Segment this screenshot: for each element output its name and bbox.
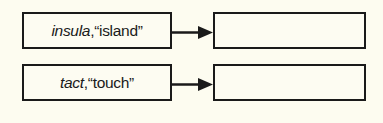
arrow-icon bbox=[172, 26, 213, 39]
arrow-icon bbox=[172, 78, 213, 91]
arrows bbox=[0, 0, 383, 123]
